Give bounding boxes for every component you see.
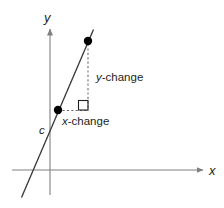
x-change-label-suffix: -change	[68, 115, 110, 127]
y-change-label-suffix: -change	[102, 71, 144, 83]
lower-point-marker	[54, 106, 62, 114]
y-change-label: y-change	[96, 72, 143, 84]
y-axis-label: y	[44, 11, 51, 24]
right-angle-marker	[79, 101, 89, 111]
x-axis-label: x	[209, 164, 216, 177]
graph-figure: y x c x-change y-change	[0, 0, 224, 208]
upper-point-marker	[84, 37, 92, 45]
graph-canvas	[0, 0, 224, 208]
x-change-label: x-change	[62, 116, 109, 128]
y-intercept-label: c	[39, 125, 45, 137]
